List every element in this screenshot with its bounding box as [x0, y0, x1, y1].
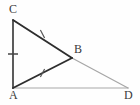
segment-BD-line: [72, 58, 128, 88]
vertex-label-A: A: [9, 89, 18, 101]
geometry-diagram-canvas: [0, 0, 140, 105]
vertex-label-B: B: [74, 43, 82, 55]
vertex-label-D: D: [124, 89, 133, 101]
tick-on-CB-icon: [40, 30, 44, 38]
vertex-label-C: C: [9, 3, 17, 15]
geometry-figure: C B A D: [0, 0, 140, 105]
segment-CB-line: [13, 20, 72, 58]
